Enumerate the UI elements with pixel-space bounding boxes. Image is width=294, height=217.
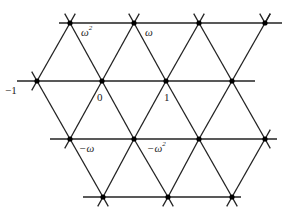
lattice-point [67,20,72,25]
lattice-points [34,20,267,199]
lattice-point [196,20,201,25]
diagonal-line [199,23,232,81]
diagonal-line [232,81,265,139]
lattice-point [131,20,136,25]
lattice-point [131,136,136,141]
diagonal-line [199,81,232,139]
diagonal-line [134,81,166,139]
label-base: −ω [79,142,94,154]
label-minus-omega-squared: −ω2 [147,143,166,154]
lattice-point [262,20,267,25]
lattice-point [165,194,170,199]
lattice-point [262,136,267,141]
label-minus-one: −1 [5,85,17,96]
label-base: −ω [147,142,162,154]
diagonal-line [37,81,70,139]
diagonal-line [168,139,199,197]
label-omega-squared: ω2 [81,27,92,38]
diagonal-line [166,81,199,139]
diagonal-line [232,139,265,197]
label-one: 1 [164,92,170,103]
lattice-point [163,78,168,83]
diagonal-line [102,81,134,139]
diagonal-line [37,23,70,81]
label-base: −1 [5,84,17,96]
diagonal-lines [32,14,271,207]
label-base: 0 [97,91,103,103]
diagonal-line [102,23,134,81]
lattice-point [67,136,72,141]
lattice-point [100,194,105,199]
label-base: ω [145,26,153,38]
label-exponent: 2 [162,140,166,148]
label-base: 1 [164,91,170,103]
diagonal-line [232,23,265,81]
label-omega: ω [145,27,153,38]
diagonal-line [166,23,199,81]
lattice-point [196,136,201,141]
lattice-point [99,78,104,83]
label-base: ω [81,26,89,38]
label-minus-omega: −ω [79,143,94,154]
diagonal-line [103,139,134,197]
label-exponent: 2 [89,24,93,32]
lattice-point [229,78,234,83]
label-zero: 0 [97,92,103,103]
lattice-point [34,78,39,83]
diagonal-line [199,139,232,197]
diagonal-line [70,81,102,139]
lattice-point [229,194,234,199]
